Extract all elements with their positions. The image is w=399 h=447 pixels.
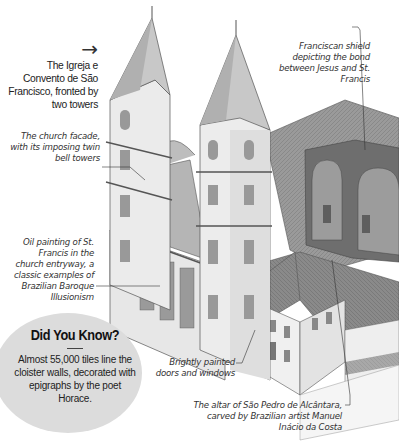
label-shield: Franciscan shield depicting the bond bet… xyxy=(270,41,370,85)
cutaway-interior xyxy=(305,140,399,262)
label-facade: The church facade, with its imposing twi… xyxy=(10,131,100,164)
divider xyxy=(67,348,83,349)
label-altar: The altar of São Pedro de Alcântara, car… xyxy=(190,400,342,433)
did-you-know-body: Almost 55,000 tiles line the cloister wa… xyxy=(12,353,138,405)
arrow-right-icon: → xyxy=(6,42,98,56)
did-you-know-content: Did You Know? Almost 55,000 tiles line t… xyxy=(12,326,138,405)
title-block: → The Igreja e Convento de São Francisco… xyxy=(6,42,98,111)
did-you-know-heading: Did You Know? xyxy=(21,326,128,343)
title-text: The Igreja e Convento de São Francisco, … xyxy=(6,59,98,111)
left-bell-tower xyxy=(106,6,172,310)
label-painting: Oil painting of St. Francis in the churc… xyxy=(10,237,94,303)
label-doors: Brightly painted doors and windows xyxy=(150,357,235,379)
right-bell-tower xyxy=(196,20,272,380)
